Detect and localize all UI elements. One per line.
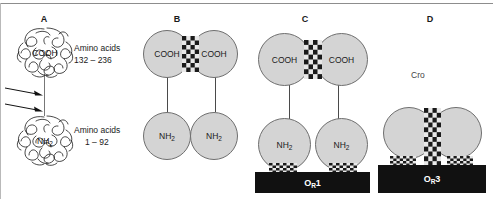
- panel-b-nh2-circle-left: NH2: [143, 112, 191, 160]
- panel-b-nh2-label-left: NH2: [144, 132, 190, 141]
- panel-letter-c: C: [290, 14, 320, 24]
- panel-b-stem-right: [215, 73, 216, 112]
- panel-c-nh2-label-left: NH2: [259, 140, 310, 149]
- protease-cleavage-arrow-lower: [5, 100, 45, 112]
- panel-d-dimerization-checker: [424, 108, 441, 166]
- operator-label-or3: OR3: [379, 174, 485, 184]
- panel-a-nh2-text: NH2: [14, 136, 76, 146]
- panel-c-cooh-label-right: COOH: [316, 55, 367, 64]
- panel-c-stem-left: [289, 84, 290, 119]
- panel-b-stem-left: [167, 73, 168, 112]
- panel-c-cooh-circle-right: COOH: [315, 33, 368, 86]
- panel-a-nh2-domain: NH2: [14, 114, 76, 166]
- panel-c-stem-right: [338, 84, 339, 119]
- panel-a-cooh-caption: Amino acids 132 – 236: [74, 42, 120, 66]
- panel-b-dimerization-checker: [182, 36, 199, 72]
- panel-b-nh2-circle-right: NH2: [190, 112, 238, 160]
- panel-letter-a: A: [29, 14, 59, 24]
- panel-b-nh2-label-right: NH2: [191, 132, 237, 141]
- panel-c-dimerization-checker: [304, 40, 322, 79]
- panel-a-cooh-domain: COOH: [14, 26, 76, 78]
- panel-letter-b: B: [162, 14, 192, 24]
- figure-top-rule: [0, 3, 493, 4]
- protease-cleavage-arrow-upper: [5, 84, 45, 96]
- figure-left-rule: [0, 3, 1, 199]
- figure-canvas: A B C D: [0, 0, 493, 199]
- operator-label-or1: OR1: [256, 178, 369, 188]
- panel-c-cooh-label-left: COOH: [259, 55, 310, 64]
- operator-box-or3: OR3: [378, 165, 486, 193]
- panel-a-cooh-text: COOH: [14, 48, 76, 58]
- operator-box-or1: OR1: [255, 172, 370, 193]
- panel-c-nh2-label-right: NH2: [316, 140, 367, 149]
- panel-letter-d: D: [415, 14, 445, 24]
- panel-a-nh2-caption: Amino acids 1 – 92: [74, 124, 120, 148]
- panel-d-cro-label: Cro: [411, 70, 425, 80]
